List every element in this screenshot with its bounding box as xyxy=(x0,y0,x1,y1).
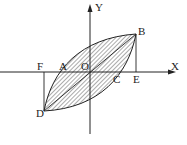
label-point-f: F xyxy=(37,60,43,72)
label-y-axis: Y xyxy=(95,1,103,13)
label-point-e: E xyxy=(133,73,140,85)
label-point-b: B xyxy=(138,25,145,37)
label-point-a: A xyxy=(59,60,67,72)
hysteresis-diagram: Y X B F A O C E D xyxy=(0,0,187,145)
label-point-c: C xyxy=(113,73,120,85)
label-point-d: D xyxy=(36,107,44,119)
label-x-axis: X xyxy=(171,60,179,72)
y-axis-arrow-icon xyxy=(88,4,93,12)
label-origin-o: O xyxy=(81,60,89,72)
